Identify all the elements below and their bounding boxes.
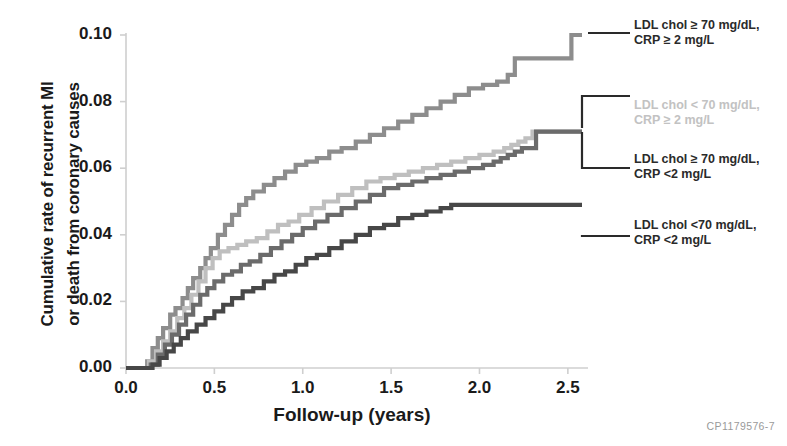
legend-label-line2-1: CRP ≥ 2 mg/L [634,113,760,128]
leader-line-1 [582,96,630,128]
legend-item-2[interactable]: LDL chol ≥ 70 mg/dL,CRP <2 mg/L [634,152,759,182]
legend-item-1[interactable]: LDL chol < 70 mg/dL,CRP ≥ 2 mg/L [634,98,760,128]
legend-item-3[interactable]: LDL chol <70 mg/dL,CRP <2 mg/L [634,218,756,248]
legend-label-line1-0: LDL chol ≥ 70 mg/dL, [634,18,759,33]
legend-label-line2-0: CRP ≥ 2 mg/L [634,33,759,48]
legend-label-line1-3: LDL chol <70 mg/dL, [634,218,756,233]
legend-label-line1-2: LDL chol ≥ 70 mg/dL, [634,152,759,167]
legend-item-0[interactable]: LDL chol ≥ 70 mg/dL,CRP ≥ 2 mg/L [634,18,759,48]
chart-figure: Cumulative rate of recurrent MI or death… [0,0,787,446]
leader-line-2 [582,132,630,168]
figure-code-label: CP1179576-7 [707,420,775,432]
legend-label-line2-3: CRP <2 mg/L [634,233,756,248]
legend-label-line2-2: CRP <2 mg/L [634,167,759,182]
leader-line-3 [582,235,630,236]
legend-label-line1-1: LDL chol < 70 mg/dL, [634,98,760,113]
